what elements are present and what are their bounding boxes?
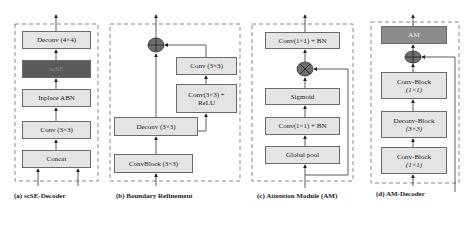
conv-block-kernel: (1×1) <box>406 86 422 94</box>
conv-block-label: Conv-Block <box>397 153 431 161</box>
concat-block: Concat <box>22 150 91 168</box>
add-operator-icon <box>405 51 421 63</box>
caption-boundary-refinement: (b) Boundary Refinement <box>116 192 193 200</box>
caption-am-decoder: (d) AM-Decoder <box>376 190 425 198</box>
conv-relu-line2: ReLU <box>198 99 215 107</box>
caption-attention-module: (c) Attention Module (AM) <box>257 192 337 200</box>
inplace-abn-block: Inplace ABN <box>22 89 91 107</box>
add-operator-icon <box>148 38 164 52</box>
conv-1x1-bn-top-block: Conv(1×1) + BN <box>265 32 340 49</box>
deconv-4x4-block: Deconv (4×4) <box>22 31 91 49</box>
scse-block: scSE <box>22 60 91 78</box>
sigmoid-block: Sigmoid <box>265 88 340 105</box>
deconv-block-label: Deconv-Block <box>394 117 435 125</box>
conv-block-1x1-bottom: Conv-Block (1×1) <box>381 147 447 174</box>
conv-block-label: Conv-Block <box>397 78 431 86</box>
convblock-3x3-block: ConvBlock (3×3) <box>114 154 193 173</box>
caption-scse-decoder: (a) scSE-Decoder <box>14 192 66 200</box>
global-pool-block: Global pool <box>265 146 340 164</box>
deconv-3x3-block: Deconv (3×3) <box>114 117 198 136</box>
deconv-block-3x3: Deconv-Block (3×3) <box>381 111 447 138</box>
conv-3x3-block: Conv (3×3) <box>22 121 91 139</box>
conv-relu-line1: Conv(3×3) + <box>188 91 224 99</box>
multiply-operator-icon <box>297 62 313 76</box>
conv-relu-block: Conv(3×3) + ReLU <box>176 84 237 113</box>
deconv-block-kernel: (3×3) <box>406 125 422 133</box>
conv-3x3-block: Conv (3×3) <box>176 57 237 75</box>
conv-1x1-bn-block: Conv(1×1) + BN <box>265 117 340 135</box>
am-block: AM <box>381 26 447 44</box>
conv-block-kernel: (1×1) <box>406 161 422 169</box>
conv-block-1x1-top: Conv-Block (1×1) <box>381 72 447 99</box>
